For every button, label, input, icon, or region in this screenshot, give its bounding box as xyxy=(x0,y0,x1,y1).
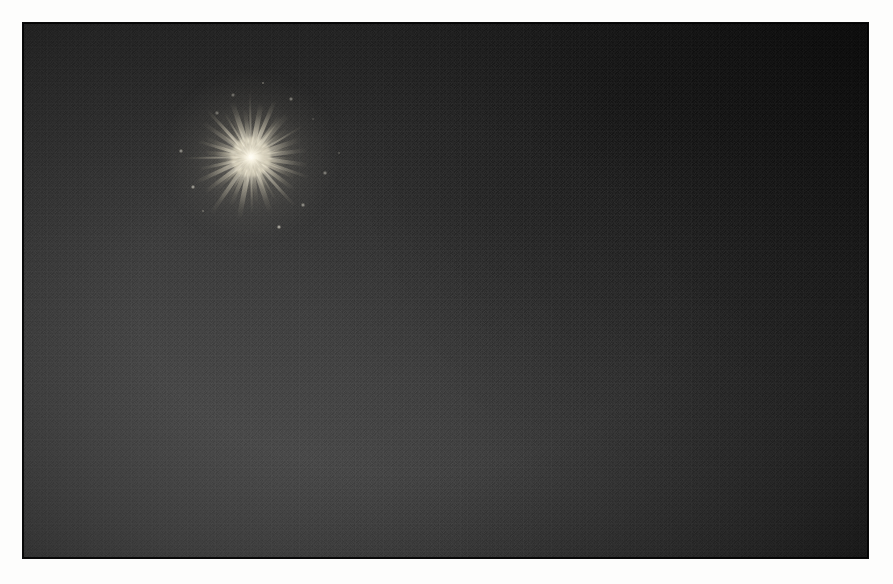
burst-spark xyxy=(312,118,314,120)
vignette-overlay xyxy=(23,23,868,558)
burst-spark xyxy=(262,82,264,84)
burst-spark xyxy=(338,152,340,154)
photograph-viewport: firework burst xyxy=(0,0,893,584)
burst-spark xyxy=(323,171,326,174)
burst-spark xyxy=(277,225,280,228)
firework-photograph xyxy=(23,23,868,558)
burst-spark xyxy=(202,210,204,212)
burst-spark xyxy=(301,203,304,206)
burst-spark xyxy=(215,111,218,114)
